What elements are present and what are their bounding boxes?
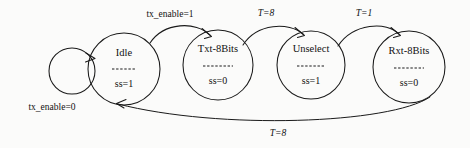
state-unselect-circle[interactable] [277, 31, 345, 99]
state-rxt8bits-label: Rxt-8Bits [389, 45, 430, 56]
edge-rxt8bits-idle-arrowhead [117, 100, 127, 109]
state-txt8bits-label: Txt-8Bits [198, 43, 238, 54]
state-rxt8bits-circle[interactable] [373, 31, 445, 103]
transition-idle-to-txt8bits [150, 26, 212, 43]
state-txt8bits[interactable]: Txt-8Bits ss=0 [183, 30, 253, 100]
state-unselect[interactable]: Unselect ss=1 [277, 31, 345, 99]
label-idle-to-txt8bits: tx_enable=1 [146, 9, 193, 19]
state-idle[interactable]: Idle ss=1 [88, 33, 160, 105]
state-idle-circle[interactable] [88, 33, 160, 105]
state-idle-output: ss=1 [115, 78, 133, 89]
state-rxt8bits[interactable]: Rxt-8Bits ss=0 [373, 31, 445, 103]
state-txt8bits-circle[interactable] [183, 30, 253, 100]
label-rxt8bits-to-idle: T=8 [270, 128, 287, 138]
label-unselect-to-rxt8bits: T=1 [356, 8, 372, 18]
edge-rxt8bits-idle [118, 97, 430, 121]
transition-rxt8bits-to-idle [117, 97, 431, 121]
state-txt8bits-output: ss=0 [209, 75, 227, 86]
state-diagram: Idle ss=1 Txt-8Bits ss=0 Unselect ss=1 R… [0, 0, 470, 148]
label-idle-self-loop: tx_enable=0 [28, 102, 75, 112]
transition-txt8bits-to-unselect [243, 26, 305, 45]
label-txt8bits-to-unselect: T=8 [258, 8, 275, 18]
state-idle-label: Idle [116, 47, 133, 58]
state-unselect-label: Unselect [293, 43, 330, 54]
state-unselect-output: ss=1 [302, 75, 320, 86]
fsm-canvas: Idle ss=1 Txt-8Bits ss=0 Unselect ss=1 R… [0, 0, 470, 148]
state-rxt8bits-output: ss=0 [400, 77, 418, 88]
